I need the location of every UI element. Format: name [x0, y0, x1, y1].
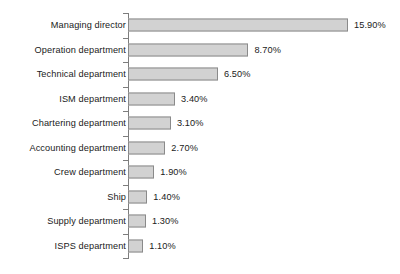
bar-and-value: 2.70% — [128, 141, 198, 154]
value-label: 3.10% — [177, 118, 204, 129]
axis-tick — [123, 258, 128, 259]
bar — [128, 215, 146, 228]
bar-row: Supply department1.30% — [0, 209, 400, 234]
bar-and-value: 8.70% — [128, 43, 281, 56]
bar-row: Crew department1.90% — [0, 160, 400, 185]
value-label: 1.90% — [160, 167, 187, 178]
plot-area: Managing director15.90%Operation departm… — [0, 0, 400, 274]
value-label: 1.30% — [152, 216, 179, 227]
bar-and-value: 1.40% — [128, 190, 180, 203]
category-label: Managing director — [51, 20, 126, 31]
bar — [128, 92, 175, 105]
category-label: Chartering department — [32, 118, 126, 129]
category-label: Accounting department — [29, 142, 126, 153]
bar — [128, 19, 348, 32]
bar — [128, 68, 218, 81]
category-label: Ship — [107, 191, 126, 202]
bar — [128, 190, 147, 203]
bar-and-value: 1.30% — [128, 215, 179, 228]
bar-and-value: 1.90% — [128, 166, 187, 179]
value-label: 8.70% — [254, 44, 281, 55]
value-label: 2.70% — [171, 142, 198, 153]
category-label: Supply department — [47, 216, 126, 227]
category-label: Technical department — [37, 69, 126, 80]
bar — [128, 166, 154, 179]
bar-row: Managing director15.90% — [0, 13, 400, 38]
bar — [128, 43, 248, 56]
category-label: ISM department — [59, 93, 126, 104]
category-label: ISPS department — [55, 240, 126, 251]
value-label: 15.90% — [354, 20, 386, 31]
bar-row: Accounting department2.70% — [0, 136, 400, 161]
bar-chart: Managing director15.90%Operation departm… — [0, 0, 400, 274]
bar — [128, 117, 171, 130]
bar — [128, 239, 143, 252]
value-label: 3.40% — [181, 93, 208, 104]
bar-and-value: 15.90% — [128, 19, 386, 32]
bar-and-value: 3.10% — [128, 117, 203, 130]
value-label: 1.10% — [149, 240, 176, 251]
bar-row: ISM department3.40% — [0, 87, 400, 112]
bar-row: Technical department6.50% — [0, 62, 400, 87]
value-label: 1.40% — [153, 191, 180, 202]
category-label: Crew department — [54, 167, 126, 178]
bar-and-value: 6.50% — [128, 68, 250, 81]
bar-and-value: 1.10% — [128, 239, 176, 252]
bar-row: Ship1.40% — [0, 185, 400, 210]
value-label: 6.50% — [224, 69, 251, 80]
bar-row: Chartering department3.10% — [0, 111, 400, 136]
bar-row: Operation department8.70% — [0, 38, 400, 63]
bar-row: ISPS department1.10% — [0, 234, 400, 259]
bar — [128, 141, 165, 154]
category-label: Operation department — [35, 44, 126, 55]
bar-and-value: 3.40% — [128, 92, 208, 105]
